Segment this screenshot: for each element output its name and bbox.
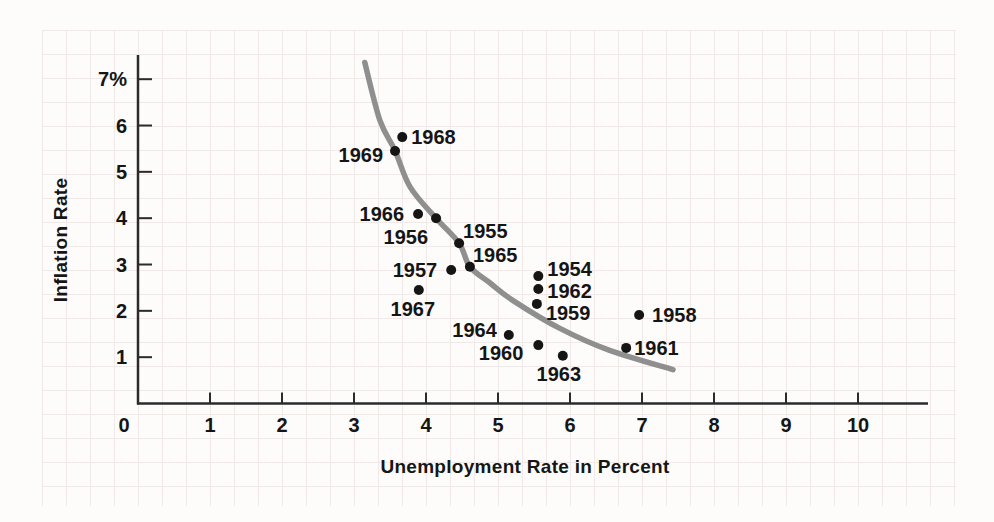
data-point-label-1961: 1961: [634, 337, 679, 359]
data-point-label-1957: 1957: [393, 259, 438, 281]
y-tick-label: 1: [116, 346, 127, 368]
data-point-label-1966: 1966: [360, 203, 405, 225]
data-point-label-1963: 1963: [537, 363, 582, 385]
data-point-label-1954: 1954: [547, 258, 592, 280]
data-point-1957: [446, 265, 456, 275]
x-tick-label: 8: [708, 414, 719, 436]
y-tick-label: 6: [116, 115, 127, 137]
data-point-1966: [413, 209, 423, 219]
y-tick-label: 2: [116, 300, 127, 322]
y-tick-label: 3: [116, 254, 127, 276]
data-point-1960: [533, 340, 543, 350]
data-point-label-1959: 1959: [546, 302, 591, 324]
x-tick-label: 6: [564, 414, 575, 436]
x-tick-label: 10: [847, 414, 869, 436]
data-point-label-1960: 1960: [479, 342, 524, 364]
data-point-label-1956: 1956: [384, 226, 429, 248]
data-point-label-1958: 1958: [652, 304, 697, 326]
data-point-1956: [431, 213, 441, 223]
data-point-1963: [558, 351, 568, 361]
data-point-1961: [621, 343, 631, 353]
x-tick-label: 2: [276, 414, 287, 436]
data-point-1958: [634, 310, 644, 320]
y-tick-label: 4: [116, 207, 128, 229]
data-point-1968: [397, 132, 407, 142]
data-point-label-1962: 1962: [547, 280, 592, 302]
data-point-label-1964: 1964: [452, 319, 497, 341]
scatter-chart: 1234567891001234567%19541955195619571958…: [0, 0, 994, 522]
x-tick-label: 5: [492, 414, 503, 436]
origin-tick-label: 0: [118, 414, 129, 436]
data-point-1967: [414, 285, 424, 295]
data-point-label-1969: 1969: [339, 144, 384, 166]
data-point-label-1965: 1965: [473, 244, 518, 266]
data-point-label-1955: 1955: [463, 220, 508, 242]
phillips-curve-figure: 1234567891001234567%19541955195619571958…: [0, 0, 994, 522]
x-tick-label: 9: [780, 414, 791, 436]
x-tick-label: 3: [348, 414, 359, 436]
y-tick-label: 5: [116, 161, 127, 183]
data-point-1964: [504, 330, 514, 340]
y-axis-title: Inflation Rate: [50, 140, 74, 340]
x-tick-label: 1: [204, 414, 215, 436]
data-point-label-1968: 1968: [411, 126, 456, 148]
data-point-1969: [390, 146, 400, 156]
data-point-1962: [533, 284, 543, 294]
data-point-1959: [532, 299, 542, 309]
y-tick-label: 7%: [98, 68, 127, 90]
x-tick-label: 4: [420, 414, 432, 436]
data-point-1954: [533, 271, 543, 281]
fitted-phillips-curve: [365, 63, 673, 370]
x-axis-title: Unemployment Rate in Percent: [275, 456, 775, 478]
x-tick-label: 7: [636, 414, 647, 436]
data-point-label-1967: 1967: [391, 298, 436, 320]
